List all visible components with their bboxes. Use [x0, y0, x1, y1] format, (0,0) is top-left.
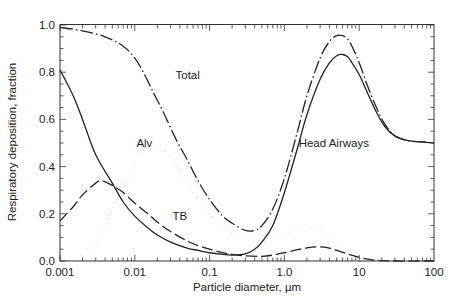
- x-axis-title: Particle diameter, µm: [193, 281, 301, 293]
- x-tick-label: 0.1: [202, 266, 218, 278]
- deposition-chart: 0.0010.010.11.010100 0.00.20.40.60.81.0 …: [0, 0, 461, 305]
- y-axis-title: Respiratory deposition, fraction: [6, 63, 18, 222]
- y-tick-label: 0.6: [39, 113, 55, 125]
- x-tick-label: 1.0: [276, 266, 292, 278]
- series-total-line: [60, 27, 434, 231]
- curve-label-head-airways: Head Airways: [299, 137, 370, 149]
- curves-layer: [60, 27, 434, 261]
- y-tick-label: 0.0: [39, 255, 55, 267]
- y-tick-labels: 0.00.20.40.60.81.0: [39, 19, 56, 267]
- x-tick-label: 100: [424, 266, 443, 278]
- series-tb-line: [60, 181, 434, 261]
- curve-label-alv: Alv: [136, 137, 152, 149]
- y-tick-label: 0.8: [39, 66, 55, 78]
- curve-label-total: Total: [175, 69, 199, 81]
- plot-frame: [60, 25, 434, 262]
- x-tick-label: 10: [353, 266, 366, 278]
- y-tick-label: 1.0: [39, 19, 55, 31]
- series-head-airways-line: [60, 54, 434, 255]
- x-tick-label: 0.001: [46, 266, 75, 278]
- annotations-layer: TotalAlvTBHead Airways: [136, 69, 369, 223]
- series-alv-line: [60, 145, 434, 261]
- y-tick-label: 0.2: [39, 208, 55, 220]
- y-tick-label: 0.4: [39, 161, 56, 173]
- x-tick-labels: 0.0010.010.11.010100: [46, 266, 444, 278]
- x-tick-label: 0.01: [124, 266, 146, 278]
- curve-label-tb: TB: [173, 210, 188, 222]
- ticks-layer: [60, 25, 434, 261]
